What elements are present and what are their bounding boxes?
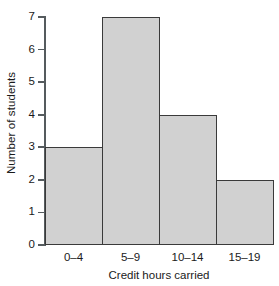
y-tick-label: 5 (18, 76, 35, 88)
histogram-bar (159, 115, 217, 245)
x-tick-label: 5–9 (102, 252, 159, 264)
plot-area (45, 17, 273, 245)
y-tick-label: 6 (18, 44, 35, 56)
y-axis-title-label: Number of students (5, 72, 17, 174)
y-tick-label: 7 (18, 11, 35, 23)
x-tick-label: 0–4 (45, 252, 102, 264)
x-axis-title: Credit hours carried (45, 270, 273, 282)
y-tick-mark (38, 114, 44, 116)
histogram-bar (216, 180, 274, 245)
y-tick-label: 0 (18, 239, 35, 251)
y-tick-label: 2 (18, 174, 35, 186)
y-tick-mark (38, 16, 44, 18)
histogram-bar (102, 17, 160, 245)
y-tick-label: 4 (18, 109, 35, 121)
y-tick-mark (38, 49, 44, 51)
y-tick-label: 3 (18, 141, 35, 153)
x-tick-label: 10–14 (159, 252, 216, 264)
histogram-bar (45, 147, 103, 245)
y-tick-mark (38, 146, 44, 148)
x-tick-label: 15–19 (216, 252, 273, 264)
y-tick-mark (38, 81, 44, 83)
y-tick-label: 1 (18, 206, 35, 218)
y-tick-mark (38, 244, 44, 246)
histogram-chart: Number of students 01234567 0–45–910–141… (0, 0, 279, 286)
y-tick-mark (38, 179, 44, 181)
y-tick-mark (38, 212, 44, 214)
